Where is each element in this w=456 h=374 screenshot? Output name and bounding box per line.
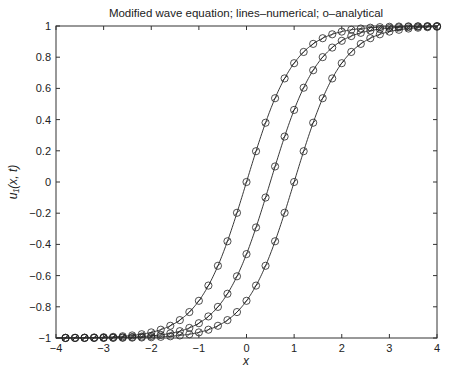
x-tick-label: −2	[145, 342, 158, 354]
analytical-marker	[310, 40, 317, 47]
analytical-marker	[224, 317, 231, 324]
analytical-marker	[291, 178, 298, 185]
x-tick-label: 3	[386, 342, 392, 354]
x-tick-label: −4	[50, 342, 63, 354]
analytical-marker	[329, 44, 336, 51]
analytical-marker	[348, 48, 355, 55]
x-tick-label: 1	[291, 342, 297, 354]
analytical-marker	[329, 31, 336, 38]
analytical-marker	[281, 75, 288, 82]
x-tick-label: −3	[97, 342, 110, 354]
plot-area	[56, 23, 441, 342]
analytical-marker	[233, 209, 240, 216]
y-axis-ticks: −1−0.8−0.6−0.4−0.200.20.40.60.81	[29, 20, 437, 344]
analytical-marker	[281, 133, 288, 140]
y-tick-label: 0	[45, 176, 51, 188]
x-axis-label: x	[242, 354, 250, 368]
analytical-marker	[214, 262, 221, 269]
analytical-marker	[243, 250, 250, 257]
analytical-marker	[319, 35, 326, 42]
analytical-marker	[224, 238, 231, 245]
analytical-marker	[252, 148, 259, 155]
y-tick-label: 0.8	[36, 51, 51, 63]
y-tick-label: 0.4	[36, 114, 51, 126]
y-tick-label: 1	[45, 20, 51, 32]
analytical-marker	[291, 106, 298, 113]
x-tick-label: 2	[339, 342, 345, 354]
analytical-marker	[310, 67, 317, 74]
analytical-marker	[262, 194, 269, 201]
analytical-marker	[176, 317, 183, 324]
analytical-marker	[357, 40, 364, 47]
analytical-marker	[195, 320, 202, 327]
analytical-marker	[233, 273, 240, 280]
analytical-marker	[252, 282, 259, 289]
analytical-marker	[338, 37, 345, 44]
analytical-marker	[262, 119, 269, 126]
analytical-marker	[367, 35, 374, 42]
analytical-marker	[205, 313, 212, 320]
y-axis-label: u₁(x, t)	[6, 165, 20, 199]
analytical-marker	[252, 224, 259, 231]
analytical-marker	[224, 290, 231, 297]
analytical-marker	[319, 95, 326, 102]
analytical-marker	[262, 262, 269, 269]
analytical-marker	[243, 178, 250, 185]
analytical-marker	[205, 326, 212, 333]
analytical-marker	[243, 297, 250, 304]
analytical-marker	[214, 303, 221, 310]
analytical-marker	[338, 60, 345, 67]
analytical-marker	[300, 84, 307, 91]
analytical-marker	[195, 297, 202, 304]
analytical-marker	[300, 48, 307, 55]
analytical-marker	[205, 282, 212, 289]
analytical-marker	[319, 54, 326, 61]
analytical-marker	[281, 209, 288, 216]
y-tick-label: −0.8	[29, 301, 51, 313]
y-tick-label: −0.6	[29, 270, 51, 282]
chart: Modified wave equation; lines–numerical;…	[0, 0, 456, 374]
analytical-marker	[271, 95, 278, 102]
x-tick-label: 0	[243, 342, 249, 354]
analytical-marker	[300, 148, 307, 155]
analytical-marker	[357, 29, 364, 36]
analytical-marker	[167, 322, 174, 329]
analytical-marker	[291, 60, 298, 67]
analytical-marker	[214, 322, 221, 329]
chart-title: Modified wave equation; lines–numerical;…	[109, 7, 383, 19]
y-tick-label: 0.2	[36, 145, 51, 157]
y-tick-label: 0.6	[36, 82, 51, 94]
analytical-marker	[233, 308, 240, 315]
analytical-marker	[176, 328, 183, 335]
y-tick-label: −0.2	[29, 207, 51, 219]
analytical-marker	[186, 308, 193, 315]
analytical-marker	[376, 31, 383, 38]
analytical-marker	[271, 238, 278, 245]
y-tick-label: −0.4	[29, 238, 51, 250]
x-tick-label: −1	[193, 342, 206, 354]
x-tick-label: 4	[434, 342, 440, 354]
x-axis-ticks: −4−3−2−101234	[50, 26, 440, 354]
analytical-marker	[271, 163, 278, 170]
analytical-marker	[329, 75, 336, 82]
analytical-marker	[310, 119, 317, 126]
